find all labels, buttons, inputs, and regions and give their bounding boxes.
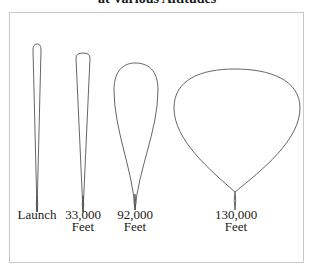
balloon-92000-shape <box>114 63 158 210</box>
label-launch: Launch <box>18 209 57 221</box>
label-92000: 92,000 Feet <box>117 209 153 233</box>
balloon-shapes <box>0 0 314 274</box>
label-33000: 33,000 Feet <box>65 209 101 233</box>
balloon-130000-shape <box>174 69 300 192</box>
label-130000: 130,000 Feet <box>215 209 257 233</box>
balloon-33000-shape <box>76 53 90 212</box>
balloon-launch-shape <box>33 44 41 212</box>
